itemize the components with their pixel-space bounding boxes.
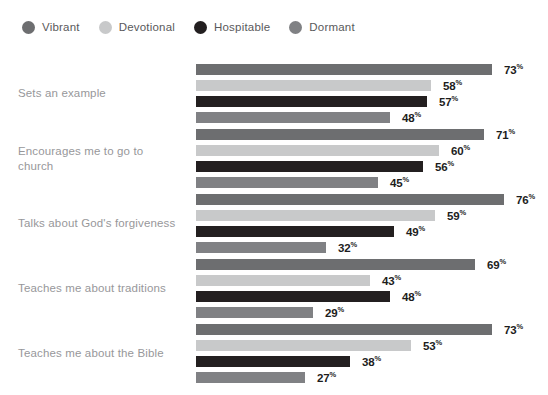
bar-value-number: 48 <box>402 291 414 303</box>
bar-row: 73% <box>196 64 492 75</box>
bar-value-label: 29% <box>325 305 344 319</box>
percent-sign: % <box>447 159 453 168</box>
bar-devotional[interactable] <box>196 340 411 351</box>
bar-value-label: 53% <box>423 338 442 352</box>
bar-group: Talks about God's forgiveness76%59%49%32… <box>0 194 548 258</box>
percent-sign: % <box>329 370 335 379</box>
bar-vibrant[interactable] <box>196 259 475 270</box>
bar-value-label: 73% <box>504 62 523 76</box>
bar-row: 38% <box>196 356 350 367</box>
percent-sign: % <box>374 354 380 363</box>
category-label-line: Teaches me about traditions <box>18 281 190 296</box>
bar-value-number: 27 <box>317 372 329 384</box>
bar-devotional[interactable] <box>196 275 370 286</box>
bar-value-label: 48% <box>402 289 421 303</box>
percent-sign: % <box>414 110 420 119</box>
bar-row: 45% <box>196 177 378 188</box>
bar-value-number: 49 <box>406 226 418 238</box>
bar-dormant[interactable] <box>196 112 390 123</box>
category-label: Sets an example <box>18 86 190 101</box>
percent-sign: % <box>455 78 461 87</box>
bar-dormant[interactable] <box>196 372 305 383</box>
bar-value-label: 56% <box>435 159 454 173</box>
bar-vibrant[interactable] <box>196 194 504 205</box>
percent-sign: % <box>435 338 441 347</box>
bar-row: 32% <box>196 242 326 253</box>
bar-value-number: 38 <box>362 356 374 368</box>
percent-sign: % <box>459 208 465 217</box>
percent-sign: % <box>508 127 514 136</box>
bar-devotional[interactable] <box>196 80 431 91</box>
bar-value-label: 38% <box>362 354 381 368</box>
bar-row: 71% <box>196 129 484 140</box>
category-label: Teaches me about the Bible <box>18 346 190 361</box>
percent-sign: % <box>528 192 534 201</box>
bar-devotional[interactable] <box>196 210 435 221</box>
bar-row: 57% <box>196 96 427 107</box>
bar-hospitable[interactable] <box>196 291 390 302</box>
bar-value-number: 57 <box>439 96 451 108</box>
bar-value-label: 27% <box>317 370 336 384</box>
bar-value-label: 43% <box>382 273 401 287</box>
bar-value-number: 71 <box>496 129 508 141</box>
bar-group: Teaches me about traditions69%43%48%29% <box>0 259 548 323</box>
percent-sign: % <box>463 143 469 152</box>
bar-dormant[interactable] <box>196 242 326 253</box>
bar-value-number: 73 <box>504 64 516 76</box>
category-label-line: church <box>18 159 190 174</box>
bar-value-label: 48% <box>402 110 421 124</box>
percent-sign: % <box>414 289 420 298</box>
bar-value-label: 57% <box>439 94 458 108</box>
bar-value-number: 59 <box>447 210 459 222</box>
bar-value-number: 43 <box>382 275 394 287</box>
chart-plot-area: Sets an example73%58%57%48%Encourages me… <box>0 0 548 395</box>
bar-dormant[interactable] <box>196 307 313 318</box>
bar-value-number: 76 <box>516 194 528 206</box>
category-label-line: Talks about God's forgiveness <box>18 216 190 231</box>
percent-sign: % <box>451 94 457 103</box>
bar-vibrant[interactable] <box>196 129 484 140</box>
bar-value-number: 73 <box>504 324 516 336</box>
bar-devotional[interactable] <box>196 145 439 156</box>
bar-value-number: 29 <box>325 307 337 319</box>
bar-hospitable[interactable] <box>196 161 423 172</box>
bar-row: 48% <box>196 112 390 123</box>
bar-group: Encourages me to go tochurch71%60%56%45% <box>0 129 548 193</box>
bar-row: 59% <box>196 210 435 221</box>
bar-value-label: 49% <box>406 224 425 238</box>
percent-sign: % <box>516 322 522 331</box>
category-label-line: Sets an example <box>18 86 190 101</box>
bar-value-label: 59% <box>447 208 466 222</box>
bar-row: 69% <box>196 259 475 270</box>
percent-sign: % <box>418 224 424 233</box>
bar-row: 76% <box>196 194 504 205</box>
bar-value-label: 69% <box>487 257 506 271</box>
bar-group: Teaches me about the Bible73%53%38%27% <box>0 324 548 388</box>
bar-dormant[interactable] <box>196 177 378 188</box>
bar-hospitable[interactable] <box>196 356 350 367</box>
bar-hospitable[interactable] <box>196 96 427 107</box>
bar-vibrant[interactable] <box>196 64 492 75</box>
bar-value-label: 60% <box>451 143 470 157</box>
percent-sign: % <box>394 273 400 282</box>
bar-value-number: 53 <box>423 340 435 352</box>
bar-row: 60% <box>196 145 439 156</box>
bar-row: 48% <box>196 291 390 302</box>
category-label: Talks about God's forgiveness <box>18 216 190 231</box>
bar-value-label: 73% <box>504 322 523 336</box>
percent-sign: % <box>337 305 343 314</box>
percent-sign: % <box>516 62 522 71</box>
bar-row: 58% <box>196 80 431 91</box>
bar-value-number: 69 <box>487 259 499 271</box>
bar-value-label: 58% <box>443 78 462 92</box>
bar-value-number: 48 <box>402 112 414 124</box>
percent-sign: % <box>499 257 505 266</box>
bar-hospitable[interactable] <box>196 226 394 237</box>
bar-vibrant[interactable] <box>196 324 492 335</box>
bar-chart: VibrantDevotionalHospitableDormant Sets … <box>0 0 548 395</box>
bar-value-number: 32 <box>338 242 350 254</box>
bar-value-label: 76% <box>516 192 535 206</box>
bar-row: 49% <box>196 226 394 237</box>
bar-row: 43% <box>196 275 370 286</box>
percent-sign: % <box>402 175 408 184</box>
